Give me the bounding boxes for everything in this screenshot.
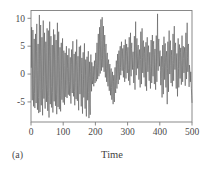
y-axis-ticks: [28, 18, 32, 102]
y-tick-label: -5: [17, 97, 25, 107]
y-axis-tick-labels: -50510: [16, 14, 26, 108]
y-tick-label: 0: [20, 69, 25, 79]
figure-panel: 0100200300400500 -50510 Time (a): [0, 0, 205, 175]
panel-caption: (a): [12, 149, 23, 161]
x-axis-tick-labels: 0100200300400500: [29, 127, 200, 137]
x-axis-ticks: [31, 122, 192, 126]
x-tick-label: 200: [88, 127, 103, 137]
x-tick-label: 300: [120, 127, 135, 137]
time-series-chart: 0100200300400500 -50510 Time (a): [0, 0, 205, 175]
x-tick-label: 400: [153, 127, 168, 137]
x-axis-title: Time: [101, 149, 123, 160]
x-tick-label: 100: [56, 127, 71, 137]
x-tick-label: 500: [185, 127, 200, 137]
y-tick-label: 5: [20, 41, 25, 51]
y-tick-label: 10: [16, 14, 26, 24]
x-tick-label: 0: [29, 127, 34, 137]
